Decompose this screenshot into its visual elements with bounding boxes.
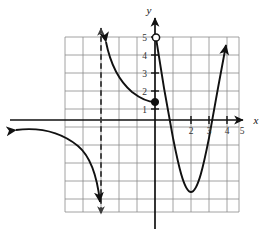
x-tick-label-2: 2 bbox=[189, 126, 194, 136]
y-tick-label-4: 4 bbox=[142, 51, 147, 61]
open-point-marker bbox=[152, 34, 159, 41]
graph-figure: y x 5 4 3 2 1 2 3 4 5 bbox=[0, 0, 271, 229]
y-axis-label: y bbox=[146, 4, 152, 16]
closed-point-marker bbox=[151, 98, 158, 105]
y-tick-label-1: 1 bbox=[142, 105, 147, 115]
x-tick-label-5: 5 bbox=[240, 126, 245, 136]
y-tick-label-5: 5 bbox=[142, 33, 147, 43]
x-axis-label: x bbox=[253, 114, 259, 126]
coordinate-plane: y x 5 4 3 2 1 2 3 4 5 bbox=[0, 0, 271, 229]
x-tick-label-4: 4 bbox=[225, 126, 230, 136]
y-tick-label-3: 3 bbox=[142, 69, 147, 79]
x-tick-label-3: 3 bbox=[207, 126, 212, 136]
y-tick-label-2: 2 bbox=[142, 87, 147, 97]
chart-background bbox=[0, 0, 271, 229]
